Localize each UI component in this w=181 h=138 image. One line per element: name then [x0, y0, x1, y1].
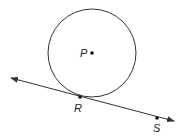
- point-p: [90, 51, 94, 55]
- point-r: [78, 95, 82, 99]
- label-p: P: [80, 47, 88, 59]
- tangent-line-rs: [11, 78, 174, 121]
- diagram-canvas: P R S: [0, 0, 181, 138]
- point-s: [155, 116, 159, 120]
- label-s: S: [153, 122, 161, 134]
- label-r: R: [74, 102, 82, 114]
